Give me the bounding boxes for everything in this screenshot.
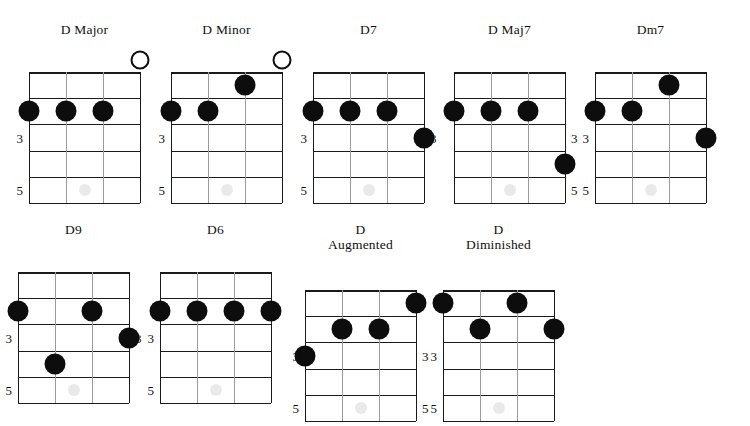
fret-number-left-5: 5 — [423, 401, 437, 414]
fretboard-grid — [29, 72, 140, 203]
fret-number-right-3: 3 — [430, 131, 444, 144]
fret-line-3 — [18, 351, 129, 352]
open-string-marker-s4[interactable] — [273, 51, 292, 70]
inlay-marker-fret5 — [493, 402, 505, 414]
finger-dot-s4-f2[interactable] — [261, 301, 282, 322]
string-line-2 — [480, 290, 481, 421]
fret-number-left-3: 3 — [151, 131, 165, 144]
finger-dot-s3-f2[interactable] — [93, 101, 114, 122]
finger-dot-s2-f2[interactable] — [340, 101, 361, 122]
finger-dot-s4-f2[interactable] — [544, 319, 565, 340]
finger-dot-s1-f2[interactable] — [19, 101, 40, 122]
chord-diagram-d-major: D Major35 — [29, 22, 140, 211]
fret-line-1 — [305, 316, 416, 317]
chord-title: D9 — [18, 222, 129, 237]
chord-diagram-d6: D635 — [160, 222, 271, 411]
finger-dot-s2-f2[interactable] — [332, 319, 353, 340]
finger-dot-s3-f2[interactable] — [369, 319, 390, 340]
finger-dot-s4-f3[interactable] — [696, 127, 717, 148]
inlay-marker-fret5 — [355, 402, 367, 414]
fret-number-left-5: 5 — [9, 183, 23, 196]
fret-number-left-5: 5 — [285, 401, 299, 414]
fret-line-2 — [313, 124, 424, 125]
finger-dot-s3-f1[interactable] — [659, 75, 680, 96]
finger-dot-s4-f1[interactable] — [406, 293, 427, 314]
finger-dot-s2-f4[interactable] — [45, 353, 66, 374]
finger-dot-s1-f2[interactable] — [161, 101, 182, 122]
fretboard-grid — [171, 72, 282, 203]
fret-line-4 — [305, 395, 416, 396]
finger-dot-s1-f2[interactable] — [150, 301, 171, 322]
fret-line-2 — [443, 342, 554, 343]
fret-line-2 — [305, 342, 416, 343]
finger-dot-s3-f2[interactable] — [377, 101, 398, 122]
finger-dot-s1-f2[interactable] — [8, 301, 29, 322]
fret-line-5 — [171, 203, 282, 204]
nut-line — [595, 72, 706, 74]
chord-diagram-dm7: Dm735 — [595, 22, 706, 211]
string-line-3 — [103, 72, 104, 203]
fret-line-5 — [595, 203, 706, 204]
finger-dot-s2-f2[interactable] — [187, 301, 208, 322]
string-line-2 — [632, 72, 633, 203]
fret-number-left-3: 3 — [423, 349, 437, 362]
fretboard-grid — [443, 290, 554, 421]
finger-dot-s3-f1[interactable] — [235, 75, 256, 96]
fret-line-5 — [443, 421, 554, 422]
fret-line-3 — [443, 369, 554, 370]
chord-title: Dm7 — [595, 22, 706, 37]
finger-dot-s1-f1[interactable] — [433, 293, 454, 314]
nut-line — [454, 72, 565, 74]
open-string-marker-s4[interactable] — [131, 51, 150, 70]
string-line-2 — [208, 72, 209, 203]
fret-line-3 — [171, 151, 282, 152]
finger-dot-s1-f2[interactable] — [585, 101, 606, 122]
fret-line-5 — [305, 421, 416, 422]
nut-line — [29, 72, 140, 74]
fret-line-1 — [595, 98, 706, 99]
inlay-marker-fret5 — [363, 184, 375, 196]
string-line-1 — [171, 72, 172, 203]
fret-line-2 — [160, 324, 271, 325]
fret-number-left-5: 5 — [0, 383, 12, 396]
fret-line-5 — [29, 203, 140, 204]
string-line-1 — [29, 72, 30, 203]
nut-line — [18, 272, 129, 274]
chord-title: D Diminished — [443, 222, 554, 252]
finger-dot-s1-f2[interactable] — [303, 101, 324, 122]
string-line-2 — [55, 272, 56, 403]
inlay-marker-fret5 — [68, 384, 80, 396]
chord-title: D Augmented — [305, 222, 416, 252]
fret-line-4 — [29, 177, 140, 178]
fret-number-left-3: 3 — [575, 131, 589, 144]
fret-number-left-3: 3 — [9, 131, 23, 144]
finger-dot-s2-f2[interactable] — [481, 101, 502, 122]
string-line-1 — [313, 72, 314, 203]
fret-number-left-3: 3 — [293, 131, 307, 144]
fret-number-left-5: 5 — [293, 183, 307, 196]
string-line-3 — [92, 272, 93, 403]
string-line-2 — [342, 290, 343, 421]
fret-line-4 — [454, 177, 565, 178]
fret-line-1 — [171, 98, 282, 99]
fret-line-3 — [595, 151, 706, 152]
finger-dot-s4-f4[interactable] — [555, 153, 576, 174]
finger-dot-s3-f2[interactable] — [82, 301, 103, 322]
finger-dot-s2-f2[interactable] — [56, 101, 77, 122]
finger-dot-s2-f2[interactable] — [470, 319, 491, 340]
string-line-3 — [234, 272, 235, 403]
finger-dot-s2-f2[interactable] — [622, 101, 643, 122]
chord-title: D6 — [160, 222, 271, 237]
fret-line-2 — [29, 124, 140, 125]
fret-number-left-5: 5 — [151, 183, 165, 196]
fret-line-4 — [595, 177, 706, 178]
nut-line — [160, 272, 271, 274]
fret-number-left-3: 3 — [140, 331, 154, 344]
finger-dot-s1-f2[interactable] — [444, 101, 465, 122]
finger-dot-s3-f2[interactable] — [518, 101, 539, 122]
chord-diagram-d-maj7: D Maj735 — [454, 22, 565, 211]
finger-dot-s3-f1[interactable] — [507, 293, 528, 314]
finger-dot-s3-f2[interactable] — [224, 301, 245, 322]
finger-dot-s2-f2[interactable] — [198, 101, 219, 122]
